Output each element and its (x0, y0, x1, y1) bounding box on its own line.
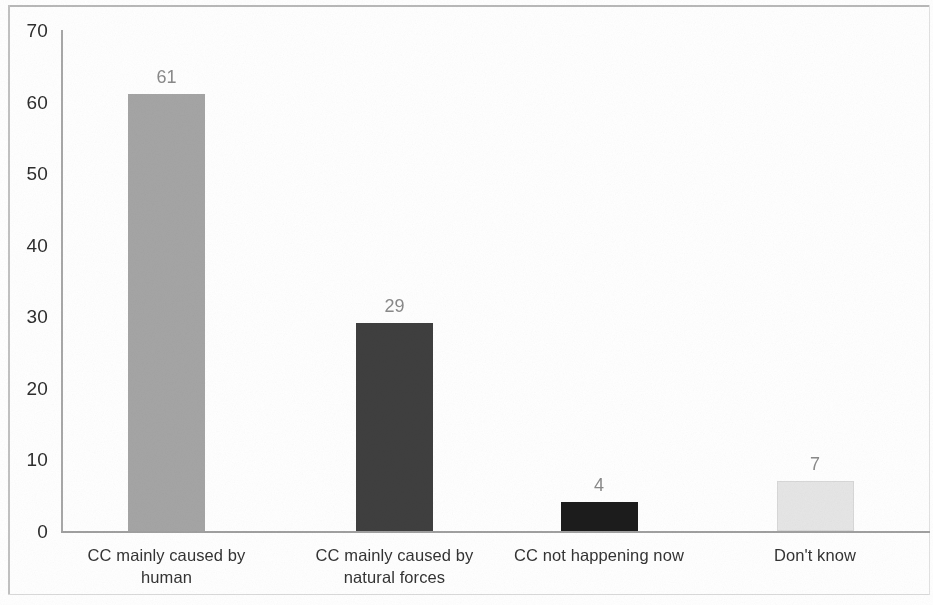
y-axis-tick-label: 30 (0, 307, 48, 326)
y-axis-tick-label: 70 (0, 21, 48, 40)
y-axis-tick-label: 10 (0, 450, 48, 469)
bar-value-label: 4 (594, 476, 604, 494)
category-label-line-1: CC not happening now (489, 545, 709, 567)
bar[interactable]: 7 (777, 481, 854, 531)
y-axis-tick-label: 40 (0, 236, 48, 255)
bar-value-label: 29 (384, 297, 404, 315)
category-label-line-2: human (57, 567, 277, 589)
category-label-line-1: CC mainly caused by (57, 545, 277, 567)
chart-page: 706050403020100 612947 CC mainly caused … (0, 0, 933, 605)
y-axis-tick-label: 20 (0, 379, 48, 398)
y-axis-tick-label: 60 (0, 93, 48, 112)
bar[interactable]: 29 (356, 323, 433, 531)
category-label-line-2: natural forces (285, 567, 505, 589)
bar-rect (777, 481, 854, 531)
y-axis-line (61, 30, 63, 532)
category-label-line-1: Don't know (705, 545, 925, 567)
x-axis-category-label: Don't know (705, 545, 925, 567)
bar-rect (356, 323, 433, 531)
bar-rect (561, 502, 638, 531)
y-axis-tick-label: 0 (0, 522, 48, 541)
bar-value-label: 7 (810, 455, 820, 473)
bar-chart-plot-area: 706050403020100 612947 CC mainly caused … (0, 0, 933, 605)
bar[interactable]: 61 (128, 94, 205, 531)
x-axis-category-label: CC mainly caused byhuman (57, 545, 277, 589)
x-axis-category-label: CC mainly caused bynatural forces (285, 545, 505, 589)
bar-value-label: 61 (156, 68, 176, 86)
category-label-line-1: CC mainly caused by (285, 545, 505, 567)
x-axis-line (61, 531, 930, 533)
x-axis-category-label: CC not happening now (489, 545, 709, 567)
bar-rect (128, 94, 205, 531)
bar[interactable]: 4 (561, 502, 638, 531)
y-axis-tick-label: 50 (0, 164, 48, 183)
